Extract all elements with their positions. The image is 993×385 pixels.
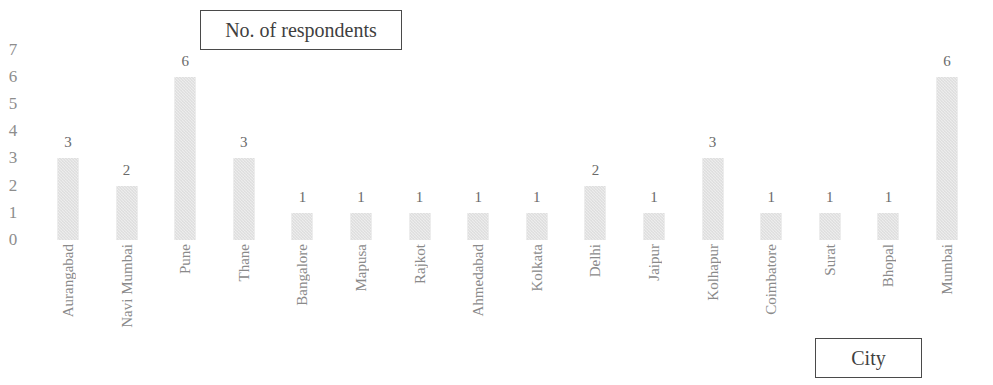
y-axis-tick: 3 <box>0 149 26 166</box>
bar-value-label: 3 <box>64 135 72 150</box>
bar[interactable] <box>292 213 313 240</box>
x-axis-tick-label: Pune <box>158 240 212 385</box>
bar-value-label: 1 <box>885 190 893 205</box>
bar[interactable] <box>878 213 899 240</box>
y-axis-tick: 2 <box>0 177 26 194</box>
x-axis-tick-label-text: Rajkot <box>412 244 428 284</box>
bar-value-label: 3 <box>709 135 717 150</box>
x-axis-tick-label: Rajkot <box>393 240 447 385</box>
bar-group[interactable]: 1 <box>744 0 798 240</box>
bar-group[interactable]: 1 <box>803 0 857 240</box>
bar[interactable] <box>644 213 665 240</box>
y-axis-tick: 1 <box>0 204 26 221</box>
y-axis-tick: 5 <box>0 95 26 112</box>
bar-value-label: 6 <box>181 54 189 69</box>
x-axis-tick-label: Bangalore <box>275 240 329 385</box>
x-axis-tick-label: Navi Mumbai <box>100 240 154 385</box>
x-axis-tick-label: Delhi <box>568 240 622 385</box>
bar-group[interactable]: 3 <box>686 0 740 240</box>
bar-group[interactable]: 3 <box>41 0 95 240</box>
x-axis-tick-label: Ahmedabad <box>451 240 505 385</box>
x-axis-tick-label-text: Jaipur <box>646 244 662 281</box>
bar[interactable] <box>351 213 372 240</box>
legend-series-title: No. of respondents <box>200 10 402 50</box>
bar[interactable] <box>761 213 782 240</box>
bar-value-label: 1 <box>767 190 775 205</box>
x-axis-tick-label-text: Bhopal <box>880 244 896 287</box>
x-axis-tick-label-text: Bangalore <box>294 244 310 306</box>
x-axis-tick-label-text: Kolkata <box>529 244 545 291</box>
bar[interactable] <box>175 77 196 240</box>
bar[interactable] <box>819 213 840 240</box>
x-axis-tick-label: Coimbatore <box>744 240 798 385</box>
x-axis-tick-label: Mapusa <box>334 240 388 385</box>
x-axis-tick-label-text: Coimbatore <box>763 244 779 315</box>
x-axis-tick-label-text: Mapusa <box>353 244 369 292</box>
bar[interactable] <box>233 158 254 240</box>
x-axis-tick-label-text: Ahmedabad <box>470 244 486 316</box>
bar[interactable] <box>585 186 606 240</box>
bar-value-label: 1 <box>357 190 365 205</box>
x-axis-tick-label-text: Navi Mumbai <box>119 244 135 328</box>
y-axis-tick: 4 <box>0 122 26 139</box>
bar-value-label: 1 <box>416 190 424 205</box>
bar[interactable] <box>468 213 489 240</box>
bar-value-label: 3 <box>240 135 248 150</box>
x-axis-tick-label: Kolhapur <box>686 240 740 385</box>
x-axis-tick-label: Thane <box>217 240 271 385</box>
bar[interactable] <box>526 213 547 240</box>
x-axis-tick-label: Kolkata <box>510 240 564 385</box>
x-axis-tick-label-text: Delhi <box>587 244 603 277</box>
x-axis-tick-label: Mumbai <box>920 240 974 385</box>
bar[interactable] <box>58 158 79 240</box>
y-axis-tick: 7 <box>0 41 26 58</box>
x-axis-tick-label-text: Mumbai <box>939 244 955 295</box>
x-axis-tick-label-text: Pune <box>177 244 193 274</box>
bar-group[interactable]: 2 <box>100 0 154 240</box>
bar[interactable] <box>409 213 430 240</box>
bar-value-label: 1 <box>533 190 541 205</box>
bar-value-label: 1 <box>826 190 834 205</box>
bar-value-label: 2 <box>592 163 600 178</box>
x-axis-tick-label: Jaipur <box>627 240 681 385</box>
bar[interactable] <box>116 186 137 240</box>
bar-group[interactable]: 1 <box>451 0 505 240</box>
x-axis-tick-label: Aurangabad <box>41 240 95 385</box>
bar-group[interactable]: 1 <box>627 0 681 240</box>
x-axis-tick-label-text: Thane <box>236 244 252 281</box>
bar-value-label: 1 <box>650 190 658 205</box>
plot-area: 765432103263111112131116 <box>0 0 993 240</box>
bar[interactable] <box>937 77 958 240</box>
bar-group[interactable]: 1 <box>861 0 915 240</box>
bar-value-label: 2 <box>123 163 131 178</box>
bar-value-label: 1 <box>299 190 307 205</box>
x-axis-tick-label-text: Surat <box>822 244 838 276</box>
bar-group[interactable]: 1 <box>510 0 564 240</box>
bar-group[interactable]: 6 <box>920 0 974 240</box>
y-axis-tick: 6 <box>0 68 26 85</box>
bar-group[interactable]: 2 <box>568 0 622 240</box>
bar[interactable] <box>702 158 723 240</box>
legend-axis-title: City <box>815 338 922 378</box>
x-axis-tick-label-text: Aurangabad <box>60 244 76 317</box>
bar-chart: 765432103263111112131116 AurangabadNavi … <box>0 0 993 385</box>
x-axis-tick-label-text: Kolhapur <box>705 244 721 301</box>
bar-value-label: 1 <box>474 190 482 205</box>
bar-value-label: 6 <box>943 54 951 69</box>
